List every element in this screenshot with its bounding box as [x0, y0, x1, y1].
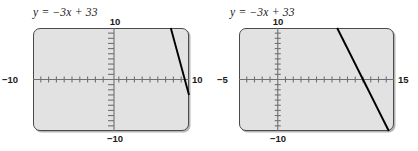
- plot-area-right: [239, 28, 394, 131]
- y-max-label-left: 10: [100, 16, 130, 27]
- x-max-label-left: 10: [192, 74, 203, 85]
- graph-panel-left: y = −3x + 33 −10 10 10 −10: [0, 0, 209, 151]
- plot-area-left: [33, 28, 189, 131]
- x-max-label-right: 15: [398, 74, 409, 85]
- x-min-label-left: −10: [2, 74, 18, 85]
- x-axis-left: [33, 77, 189, 83]
- function-line-left: [171, 28, 189, 95]
- x-axis-right: [239, 77, 394, 83]
- x-min-label-right: −5: [217, 74, 228, 85]
- y-min-label-right: −10: [263, 133, 293, 144]
- y-min-label-left: −10: [100, 133, 130, 144]
- graph-panel-right: y = −3x + 33 −5 15 10 −10: [209, 0, 418, 151]
- y-max-label-right: 10: [263, 16, 293, 27]
- equation-label-left: y = −3x + 33: [33, 6, 98, 18]
